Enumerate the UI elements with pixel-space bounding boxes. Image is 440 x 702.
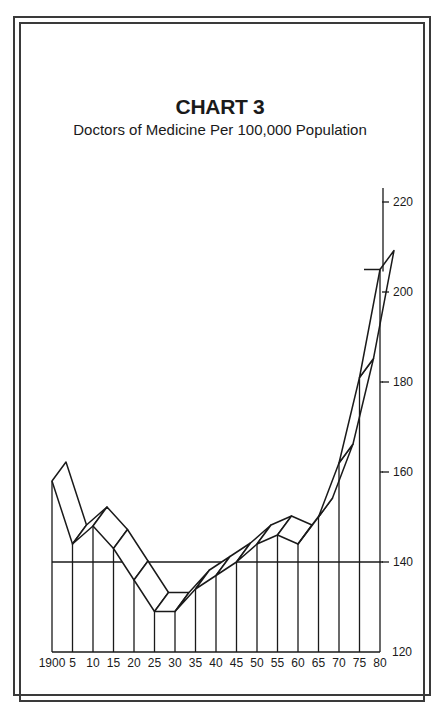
x-tick-label: 60 <box>291 656 305 670</box>
y-tick-label: 200 <box>393 285 413 299</box>
x-axis: 19005101520253035404550556065707580 <box>39 656 387 670</box>
x-tick-label: 25 <box>148 656 162 670</box>
ribbon-segment <box>216 543 251 576</box>
x-tick-label: 55 <box>271 656 285 670</box>
y-tick-label: 180 <box>393 375 413 389</box>
x-tick-label: 80 <box>373 656 387 670</box>
y-tick-label: 160 <box>393 465 413 479</box>
y-tick-label: 140 <box>393 555 413 569</box>
x-tick-label: 45 <box>230 656 244 670</box>
ribbon-segment <box>237 525 272 562</box>
x-tick-label: 10 <box>86 656 100 670</box>
x-tick-label: 20 <box>127 656 141 670</box>
y-axis: 120140160180200220 <box>382 188 413 659</box>
x-tick-label: 70 <box>332 656 346 670</box>
x-tick-label: 65 <box>312 656 326 670</box>
data-ribbon <box>52 251 394 612</box>
ribbon-segment <box>319 444 354 517</box>
ribbon-segment <box>339 359 374 464</box>
x-tick-label: 35 <box>189 656 203 670</box>
x-tick-label: 5 <box>69 656 76 670</box>
x-tick-label: 30 <box>168 656 182 670</box>
x-tick-label: 15 <box>107 656 121 670</box>
x-tick-label: 40 <box>209 656 223 670</box>
year-lines <box>52 270 380 653</box>
x-tick-label: 50 <box>250 656 264 670</box>
x-tick-label: 1900 <box>39 656 66 670</box>
y-tick-label: 220 <box>393 195 413 209</box>
x-tick-label: 75 <box>353 656 367 670</box>
y-tick-label: 120 <box>392 645 412 659</box>
